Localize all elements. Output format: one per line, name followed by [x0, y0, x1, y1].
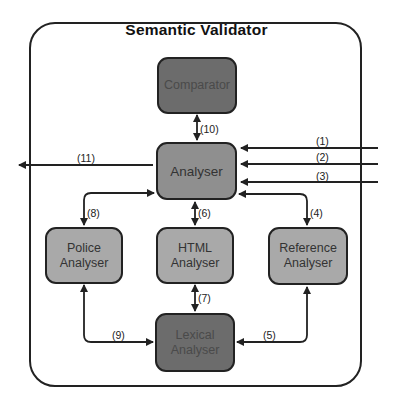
reference-analyser-node: Reference Analyser — [268, 227, 348, 285]
lexical-analyser-label-line2: Analyser — [171, 343, 220, 358]
edge-label-2: (2) — [316, 151, 329, 163]
edge-label-11: (11) — [77, 152, 95, 164]
edge-label-8: (8) — [87, 207, 100, 219]
html-analyser-label-line1: HTML — [178, 241, 212, 256]
edge-label-3: (3) — [316, 170, 329, 182]
edge-label-5: (5) — [263, 329, 276, 341]
comparator-node: Comparator — [157, 57, 237, 114]
edge-label-6: (6) — [198, 207, 211, 219]
edge-label-10: (10) — [200, 123, 219, 135]
arrow-4 — [239, 194, 307, 225]
analyser-node: Analyser — [156, 142, 237, 200]
semantic-validator-diagram: Semantic Validator — [0, 0, 393, 408]
edge-label-7: (7) — [198, 292, 211, 304]
lexical-analyser-node: Lexical Analyser — [155, 313, 235, 372]
analyser-label: Analyser — [170, 164, 223, 179]
lexical-analyser-label-line1: Lexical — [176, 328, 215, 343]
edge-label-4: (4) — [310, 207, 323, 219]
reference-analyser-label-line1: Reference — [279, 241, 337, 256]
police-analyser-node: Police Analyser — [45, 227, 123, 284]
html-analyser-label-line2: Analyser — [171, 256, 220, 271]
edge-label-1: (1) — [316, 135, 329, 147]
comparator-label: Comparator — [164, 78, 230, 93]
reference-analyser-label-line2: Analyser — [284, 256, 333, 271]
police-analyser-label-line1: Police — [67, 241, 101, 256]
police-analyser-label-line2: Analyser — [60, 256, 109, 271]
html-analyser-node: HTML Analyser — [156, 227, 234, 284]
edge-label-9: (9) — [112, 329, 125, 341]
